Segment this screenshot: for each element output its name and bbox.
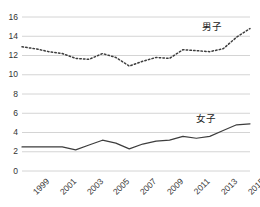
series-label-female: 女子: [196, 111, 216, 125]
series-line-female: [22, 124, 250, 150]
gridlines: [22, 17, 250, 171]
series-line-male: [22, 29, 250, 67]
chart-container: 0246810121416 19992001200320052007200920…: [0, 0, 260, 207]
series-layer: [22, 29, 250, 150]
series-label-male: 男子: [202, 19, 222, 33]
